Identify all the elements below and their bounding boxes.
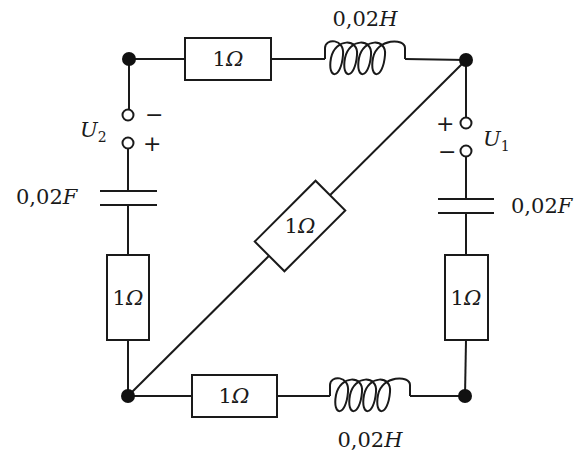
resistor-bottom: 1Ω [192, 375, 277, 417]
u1-label: U1 [483, 127, 510, 154]
terminal-u1-top [461, 118, 472, 129]
inductor-bottom-label: 0,02H [337, 428, 403, 452]
inductor-top: 0,02H [325, 7, 405, 74]
terminal-u2-top [123, 110, 134, 121]
terminal-u2-bottom [123, 138, 134, 149]
node-bottom-left [121, 389, 135, 403]
circuit-diagram: 1Ω 0,02H 1Ω 0,02H − + U2 0,02F 1Ω + − [0, 0, 588, 463]
inductor-bottom: 0,02H [330, 378, 410, 452]
u2-minus-sign: − [145, 102, 163, 127]
inductor-top-label: 0,02H [332, 7, 398, 31]
u2-plus-sign: + [143, 131, 161, 156]
resistor-right: 1Ω [445, 255, 488, 340]
u2-label: U2 [80, 118, 107, 145]
capacitor-right: 0,02F [438, 194, 574, 218]
resistor-top: 1Ω [185, 38, 271, 80]
resistor-top-label: 1Ω [213, 47, 244, 71]
capacitor-left: 0,02F [16, 185, 157, 209]
capacitor-right-label: 0,02F [511, 194, 574, 218]
resistor-left-label: 1Ω [113, 286, 144, 310]
capacitor-left-label: 0,02F [16, 185, 79, 209]
resistor-right-label: 1Ω [451, 286, 482, 310]
node-top-right [459, 53, 473, 67]
node-top-left [122, 52, 136, 66]
resistor-bottom-label: 1Ω [219, 384, 250, 408]
voltage-source-u1: + − U1 [436, 111, 510, 164]
node-bottom-right [458, 389, 472, 403]
resistor-diagonal-label: 1Ω [285, 214, 316, 238]
u1-plus-sign: + [436, 111, 454, 136]
resistor-left: 1Ω [107, 255, 149, 340]
terminal-u1-bottom [461, 146, 472, 157]
voltage-source-u2: − + U2 [80, 102, 163, 156]
u1-minus-sign: − [438, 139, 456, 164]
